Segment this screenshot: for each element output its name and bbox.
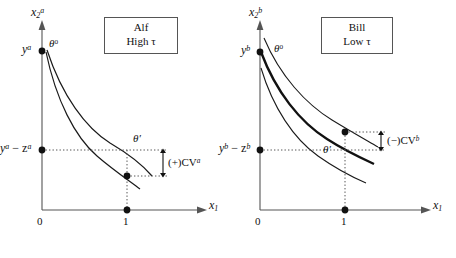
alf-box-tau: High τ xyxy=(105,35,177,49)
bill-label-cv: (−)CVb xyxy=(387,135,419,146)
alf-point-consumption xyxy=(124,173,131,180)
bill-box-tau: Low τ xyxy=(322,35,392,49)
alf-label-theta-prime: θ′ xyxy=(133,133,141,144)
alf-x-axis-arrow xyxy=(197,207,207,214)
bill-y-axis-arrow xyxy=(257,20,264,30)
alf-point-endowment xyxy=(39,48,46,55)
alf-box-label: Alf High τ xyxy=(104,17,178,54)
alf-y-axis-label: x2a xyxy=(31,6,44,20)
alf-cv-bracket xyxy=(160,149,166,178)
bill-xtick-0: 0 xyxy=(255,216,261,227)
alf-label-endowment: ya xyxy=(22,43,31,55)
alf-label-net-income: ya − za xyxy=(0,142,31,154)
panel-bill: x2b yb θo yb − zb θ′ (−)CVb 0 1 x1 Bill … xyxy=(228,0,456,258)
bill-box-name: Bill xyxy=(322,21,392,35)
panel-alf: x2a ya θo ya − za θ′ (+)CVa 0 1 x1 Alf H… xyxy=(0,0,228,258)
bill-y-axis-label: x2b xyxy=(249,6,262,20)
alf-point-net-income xyxy=(39,147,46,154)
bill-label-endowment: yb xyxy=(241,44,250,56)
bill-label-theta-initial: θo xyxy=(274,43,283,54)
alf-axes xyxy=(42,27,200,210)
bill-xtick-1: 1 xyxy=(341,216,347,227)
alf-point-x1-tick xyxy=(124,207,131,214)
bill-point-consumption xyxy=(342,129,349,136)
bill-x-axis-label: x1 xyxy=(433,199,442,213)
alf-xtick-0: 0 xyxy=(37,216,43,227)
indifference-curve-figure: x2a ya θo ya − za θ′ (+)CVa 0 1 x1 Alf H… xyxy=(0,0,456,258)
bill-x-axis-arrow xyxy=(421,207,431,214)
bill-point-net-income xyxy=(257,147,264,154)
alf-curve-theta-prime xyxy=(46,52,140,189)
alf-x-axis-label: x1 xyxy=(209,199,218,213)
bill-cv-bracket xyxy=(378,131,384,152)
bill-label-net-income: yb − zb xyxy=(219,142,250,154)
bill-point-endowment xyxy=(257,49,264,56)
alf-y-axis-arrow xyxy=(39,20,46,30)
alf-xtick-1: 1 xyxy=(123,216,129,227)
alf-curve-theta-initial xyxy=(47,50,152,176)
alf-guides xyxy=(42,150,168,210)
alf-label-theta-initial: θo xyxy=(49,38,58,49)
bill-point-x1-tick xyxy=(342,207,349,214)
alf-label-cv: (+)CVa xyxy=(168,157,200,168)
alf-box-name: Alf xyxy=(105,21,177,35)
bill-label-theta-prime: θ′ xyxy=(323,144,331,155)
alf-points xyxy=(39,48,131,214)
bill-box-label: Bill Low τ xyxy=(321,17,393,54)
bill-axes xyxy=(260,27,424,210)
